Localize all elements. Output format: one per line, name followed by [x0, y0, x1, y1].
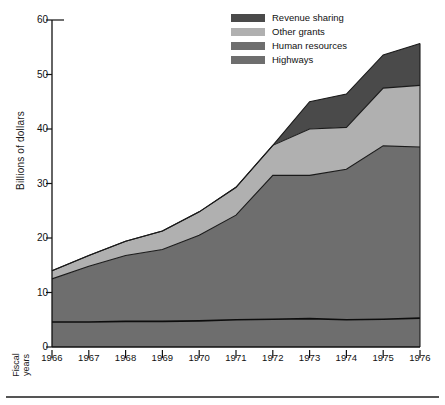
legend-swatch: [231, 14, 265, 22]
legend-swatch: [231, 28, 265, 36]
legend-label: Other grants: [272, 27, 325, 37]
area-human-resources: [52, 146, 420, 347]
legend-label: Highways: [272, 55, 313, 65]
legend-label: Human resources: [272, 41, 347, 51]
chart-page: Billions of dollars Fiscal years 0102030…: [0, 0, 445, 405]
chart-legend: Revenue sharingOther grantsHuman resourc…: [231, 12, 421, 68]
legend-swatch: [231, 56, 265, 64]
legend-item: Revenue sharing: [231, 12, 421, 23]
legend-label: Revenue sharing: [272, 13, 344, 23]
bottom-divider: [6, 396, 439, 398]
legend-item: Other grants: [231, 26, 421, 37]
legend-item: Highways: [231, 54, 421, 65]
legend-item: Human resources: [231, 40, 421, 51]
legend-swatch: [231, 42, 265, 50]
